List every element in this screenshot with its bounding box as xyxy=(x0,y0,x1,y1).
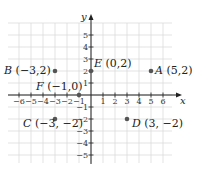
point-label-c: C (−3, −2) xyxy=(23,117,83,130)
y-axis-label: y xyxy=(80,11,87,22)
x-tick-label: 1 xyxy=(100,97,105,106)
x-tick-label: −3 xyxy=(49,97,61,106)
point-a xyxy=(149,69,154,74)
point-label-b: B (−3,2) xyxy=(3,64,51,77)
point-e xyxy=(89,69,94,74)
point-d xyxy=(125,117,130,122)
y-tick-label: 1 xyxy=(83,79,88,88)
x-tick-label: −2 xyxy=(61,97,73,106)
x-tick-label: −4 xyxy=(37,97,49,106)
y-tick-label: −4 xyxy=(76,139,88,148)
point-label-a: A (5,2) xyxy=(154,64,193,77)
y-tick-label: −1 xyxy=(76,103,88,112)
grid xyxy=(8,23,172,163)
x-tick-label: 2 xyxy=(112,97,117,106)
point-label-f: F (−1,0) xyxy=(35,80,82,93)
x-tick-label: −5 xyxy=(25,97,37,106)
x-tick-label: 4 xyxy=(136,97,141,106)
point-label-e: E (0,2) xyxy=(93,57,132,70)
x-tick-label: −6 xyxy=(13,97,25,106)
y-tick-label: 5 xyxy=(83,31,88,40)
y-tick-label: 4 xyxy=(83,43,88,52)
y-tick-label: −5 xyxy=(76,151,88,160)
x-axis-label: x xyxy=(180,95,186,106)
coordinate-plane: xy −6−5−4−3−2−112345654321−1−2−3−4−5 A (… xyxy=(0,0,198,169)
y-tick-label: 2 xyxy=(83,67,88,76)
x-tick-label: 6 xyxy=(160,97,165,106)
x-tick-label: 3 xyxy=(124,97,129,106)
axes: xy xyxy=(8,11,186,164)
point-label-d: D (3, −2) xyxy=(131,117,183,130)
y-axis-arrow-icon xyxy=(89,14,94,20)
x-tick-label: 5 xyxy=(148,97,153,106)
y-tick-label: 3 xyxy=(83,55,88,64)
point-f xyxy=(77,93,82,98)
point-b xyxy=(53,69,58,74)
